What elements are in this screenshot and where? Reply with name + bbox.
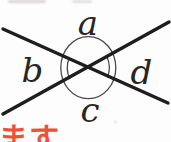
angle-label-a: a <box>78 3 98 43</box>
angle-label-d: d <box>131 52 153 92</box>
angle-label-b: b <box>22 50 44 90</box>
angle-label-c: c <box>80 90 99 130</box>
cropped-japanese-text: ます <box>0 124 60 142</box>
screenshot: a b c d ます <box>0 0 171 142</box>
